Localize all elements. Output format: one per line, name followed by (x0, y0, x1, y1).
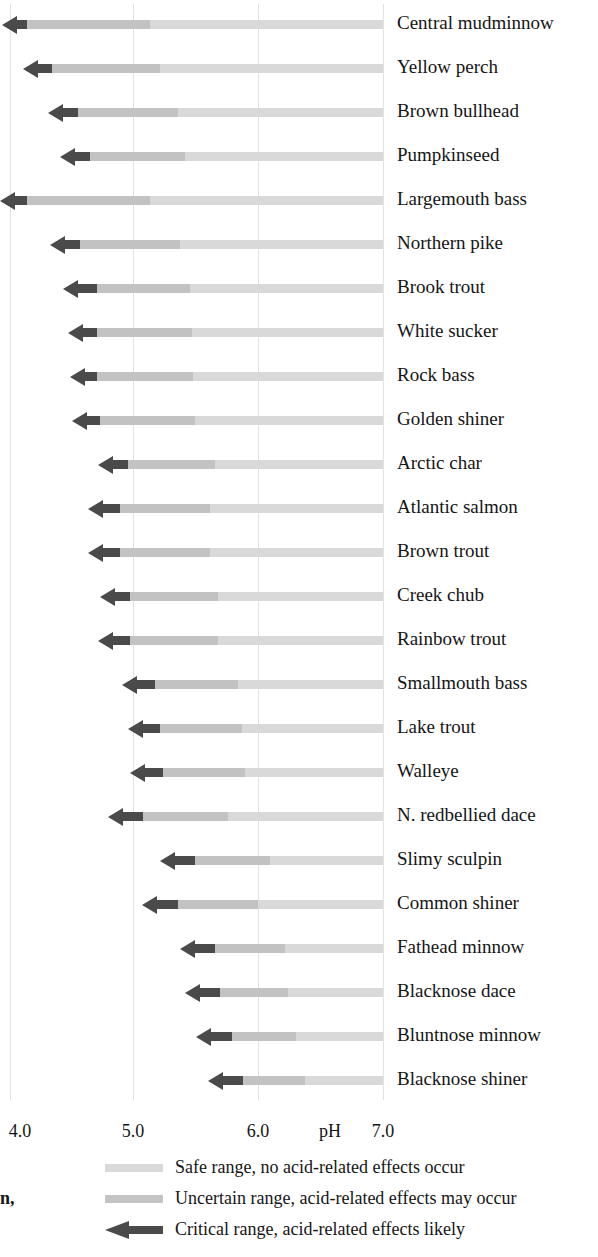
chart-row: Brook trout (0, 268, 598, 312)
segment-safe (270, 856, 383, 865)
arrow-left-icon (23, 60, 38, 78)
segment-safe (195, 416, 383, 425)
species-range-bar (0, 1076, 400, 1085)
segment-uncertain (27, 196, 150, 205)
segment-uncertain (215, 944, 285, 953)
arrow-left-icon (208, 1072, 223, 1090)
arrow-left-icon (160, 852, 175, 870)
x-tick-label: 7.0 (372, 1118, 395, 1144)
segment-critical (198, 988, 220, 997)
legend-item-safe: Safe range, no acid-related effects occu… (105, 1152, 598, 1182)
species-label: Rock bass (397, 362, 475, 388)
arrow-left-icon (88, 500, 103, 518)
species-range-bar (0, 1032, 400, 1041)
species-range-bar (0, 284, 400, 293)
species-label: Common shiner (397, 890, 519, 916)
arrow-left-icon (48, 104, 63, 122)
legend-label: Uncertain range, acid-related effects ma… (175, 1183, 516, 1213)
species-range-bar (0, 724, 400, 733)
species-range-bar (0, 592, 400, 601)
segment-safe (258, 900, 383, 909)
x-tick-label: 6.0 (247, 1118, 270, 1144)
species-label: Brown bullhead (397, 98, 519, 124)
chart-row: Smallmouth bass (0, 664, 598, 708)
species-label: Brook trout (397, 274, 485, 300)
species-range-bar (0, 240, 400, 249)
segment-uncertain (163, 768, 245, 777)
species-range-bar (0, 372, 400, 381)
species-range-bar (0, 152, 400, 161)
species-label: Fathead minnow (397, 934, 524, 960)
species-range-bar (0, 20, 400, 29)
segment-uncertain (120, 504, 210, 513)
segment-critical (73, 152, 90, 161)
segment-safe (190, 284, 383, 293)
arrow-left-icon (70, 368, 85, 386)
ph-tolerance-chart: Central mudminnowYellow perchBrown bullh… (0, 0, 598, 1257)
chart-row: Rock bass (0, 356, 598, 400)
segment-critical (209, 1032, 232, 1041)
species-label: Creek chub (397, 582, 484, 608)
arrow-left-icon (50, 236, 65, 254)
species-range-bar (0, 856, 400, 865)
segment-critical (101, 504, 120, 513)
segment-safe (305, 1076, 383, 1085)
segment-critical (173, 856, 195, 865)
segment-safe (238, 680, 383, 689)
species-label: Golden shiner (397, 406, 504, 432)
arrow-left-icon (0, 192, 15, 210)
segment-critical (101, 548, 120, 557)
arrow-left-icon (185, 984, 200, 1002)
chart-row: Bluntnose minnow (0, 1016, 598, 1060)
legend-item-critical: Critical range, acid-related effects lik… (105, 1214, 598, 1244)
chart-row: Northern pike (0, 224, 598, 268)
segment-critical (83, 372, 97, 381)
segment-safe (150, 20, 383, 29)
segment-safe (150, 196, 383, 205)
arrow-left-icon (130, 764, 145, 782)
segment-critical (111, 460, 128, 469)
arrow-left-icon (108, 808, 123, 826)
chart-row: Brown bullhead (0, 92, 598, 136)
species-range-bar (0, 900, 400, 909)
plot-area: Central mudminnowYellow perchBrown bullh… (0, 0, 598, 1110)
segment-critical (113, 592, 130, 601)
segment-uncertain (78, 108, 178, 117)
arrow-left-icon (2, 16, 17, 34)
species-label: Atlantic salmon (397, 494, 518, 520)
segment-safe (210, 548, 383, 557)
segment-uncertain (195, 856, 270, 865)
segment-safe (228, 812, 383, 821)
species-label: Walleye (397, 758, 459, 784)
segment-uncertain (128, 460, 215, 469)
segment-critical (63, 240, 80, 249)
arrow-left-icon (196, 1028, 211, 1046)
segment-safe (242, 724, 383, 733)
segment-safe (296, 1032, 383, 1041)
chart-row: Lake trout (0, 708, 598, 752)
arrow-left-icon (88, 544, 103, 562)
arrow-left-icon (180, 940, 195, 958)
species-range-bar (0, 504, 400, 513)
species-range-bar (0, 196, 400, 205)
arrow-left-icon (142, 896, 157, 914)
segment-critical (111, 636, 130, 645)
segment-critical (76, 284, 97, 293)
chart-row: Walleye (0, 752, 598, 796)
species-range-bar (0, 416, 400, 425)
chart-row: Common shiner (0, 884, 598, 928)
species-range-bar (0, 108, 400, 117)
segment-safe (215, 460, 383, 469)
chart-row: Fathead minnow (0, 928, 598, 972)
segment-safe (288, 988, 383, 997)
arrow-left-icon (105, 1221, 129, 1239)
species-range-bar (0, 768, 400, 777)
segment-critical (155, 900, 178, 909)
segment-safe (193, 372, 383, 381)
segment-safe (285, 944, 383, 953)
segment-uncertain (130, 636, 218, 645)
chart-row: Creek chub (0, 576, 598, 620)
segment-uncertain (97, 284, 190, 293)
chart-legend: Safe range, no acid-related effects occu… (0, 1152, 598, 1252)
species-label: Blacknose shiner (397, 1066, 527, 1092)
